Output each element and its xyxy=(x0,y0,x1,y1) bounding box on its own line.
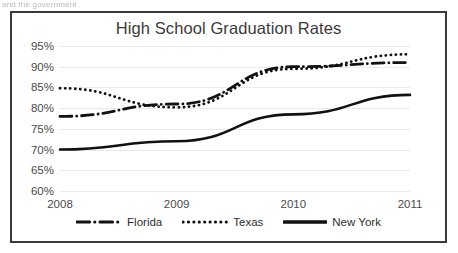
y-tick-label-85: 85% xyxy=(31,81,54,93)
y-tick-label-65: 65% xyxy=(31,164,54,176)
y-tick-label-75: 75% xyxy=(31,123,54,135)
legend-label: Texas xyxy=(233,216,263,228)
legend-item-florida[interactable]: Florida xyxy=(76,216,162,228)
legend-item-new-york[interactable]: New York xyxy=(283,216,381,228)
chart-legend: FloridaTexasNew York xyxy=(12,216,445,228)
chart-figure: High School Graduation Rates 95%90%85%80… xyxy=(10,11,447,243)
x-tick-label-2008: 2008 xyxy=(47,198,73,210)
legend-swatch-new-york xyxy=(283,217,327,227)
y-tick-label-70: 70% xyxy=(31,144,54,156)
legend-label: Florida xyxy=(127,216,162,228)
legend-swatch-texas xyxy=(182,217,228,227)
y-tick-label-80: 80% xyxy=(31,102,54,114)
x-tick-label-2011: 2011 xyxy=(398,198,423,210)
series-line-florida xyxy=(60,63,410,117)
y-tick-label-90: 90% xyxy=(31,61,54,73)
clipped-header-text: and the government xyxy=(0,0,458,9)
series-line-new-york xyxy=(60,95,410,150)
x-tick-label-2010: 2010 xyxy=(281,198,307,210)
y-tick-label-95: 95% xyxy=(31,40,54,52)
legend-swatch-florida xyxy=(76,217,122,227)
gridline-60 xyxy=(60,191,410,192)
series-container xyxy=(60,46,410,191)
legend-item-texas[interactable]: Texas xyxy=(182,216,263,228)
y-tick-label-60: 60% xyxy=(31,185,54,197)
legend-label: New York xyxy=(332,216,381,228)
plot-area: 95%90%85%80%75%70%65%60% 200820092010201… xyxy=(60,46,410,191)
chart-title: High School Graduation Rates xyxy=(12,19,445,38)
series-line-texas xyxy=(60,54,410,107)
x-tick-label-2009: 2009 xyxy=(164,198,190,210)
